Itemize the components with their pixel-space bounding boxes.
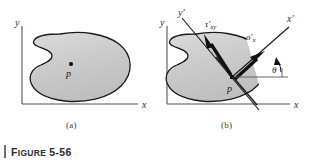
panel-b-x-axis-label: x [293,99,299,110]
theta-label: θ [272,65,277,75]
panel-b-point-marker [230,75,234,79]
panel-b-y-axis-label: y [159,17,165,28]
panel-a-x-axis-label: x [141,99,147,110]
panel-a-y-axis-label: y [14,17,20,28]
figure-5-56-illustration: x y p x y y′ x′ p [0,0,311,164]
panel-a-point-label: p [65,68,71,79]
caption-number: 5-56 [49,146,71,158]
normal-stress-label: σ′x [246,32,256,44]
theta-arc-arrowhead [274,57,281,65]
shear-stress-label: τ′xy [205,19,217,31]
caption-text: FIGURE 5-56 [11,146,72,158]
panel-b-body-group [166,32,266,101]
panel-a: x y p [14,17,147,110]
panel-a-caption: (a) [66,120,77,130]
panel-b-point-label: p [226,83,232,94]
caption-word: IGURE [18,148,46,158]
panel-b: x y y′ x′ p τ′xy σ′x [159,7,299,110]
panel-b-x-prime-label: x′ [286,13,294,24]
panel-b-body [166,32,266,101]
panel-a-point-marker [69,62,73,66]
panel-b-caption: (b) [221,120,232,130]
panel-b-y-prime-label: y′ [177,7,185,18]
panel-a-body [30,32,130,101]
caption-prefix-letter: F [11,146,18,158]
figure-caption: FIGURE 5-56 [4,145,72,158]
caption-rule [4,145,6,158]
